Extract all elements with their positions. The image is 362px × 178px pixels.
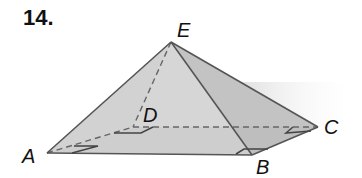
vertex-label-E: E [177, 19, 191, 41]
vertex-label-C: C [324, 116, 339, 138]
vertex-label-D: D [143, 104, 157, 126]
pyramid-figure: E D A B C [0, 0, 362, 178]
vertex-label-A: A [21, 145, 35, 167]
vertex-label-B: B [256, 156, 269, 178]
